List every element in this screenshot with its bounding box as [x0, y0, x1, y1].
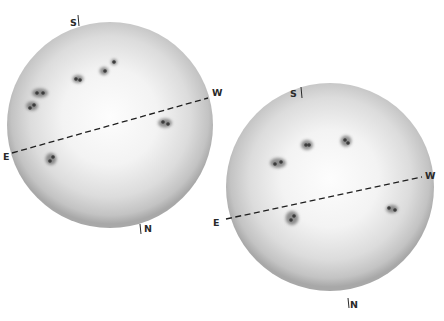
south-label: S — [70, 17, 77, 28]
sunspot-umbra — [307, 143, 311, 147]
sunspot-umbra — [161, 120, 165, 124]
sunspot-umbra — [346, 141, 350, 145]
sunspot-diagram: S N E W S N E W — [0, 0, 444, 321]
west-label: W — [425, 170, 436, 181]
sunspot-group — [100, 67, 109, 75]
sunspot-penumbra — [158, 119, 172, 128]
sunspot-group — [341, 136, 352, 147]
north-label: N — [350, 299, 358, 310]
sunspot-group — [26, 102, 38, 111]
sunspot-group — [286, 211, 299, 225]
sunspot-umbra — [292, 214, 296, 218]
solar-disk-2: S N E W — [213, 83, 436, 310]
solar-disk-1: S N E W — [3, 15, 223, 234]
sunspot-umbra — [279, 160, 283, 164]
sunspot-umbra — [103, 69, 107, 73]
sunspot-umbra — [41, 91, 45, 95]
sun-disk — [7, 22, 213, 228]
sunspot-group — [386, 205, 398, 213]
east-label: E — [3, 151, 10, 162]
sunspot-penumbra — [73, 75, 84, 83]
sunspot-umbra — [78, 78, 82, 82]
sunspot-umbra — [273, 162, 277, 166]
sunspot-umbra — [112, 60, 116, 64]
sunspot-umbra — [28, 106, 32, 110]
sunspot-umbra — [343, 138, 347, 142]
sunspot-group — [111, 59, 117, 65]
south-pole-tick — [78, 15, 79, 26]
sunspot-umbra — [51, 155, 55, 159]
sunspot-group — [32, 89, 48, 98]
sunspot-penumbra — [46, 153, 57, 165]
sunspot-group — [301, 140, 313, 150]
east-label: E — [213, 217, 220, 228]
sunspot-umbra — [35, 91, 39, 95]
sunspot-umbra — [166, 122, 170, 126]
west-label: W — [212, 87, 223, 98]
sunspot-group — [73, 75, 84, 83]
sunspot-group — [46, 153, 57, 165]
south-label: S — [290, 88, 297, 99]
sunspot-penumbra — [286, 211, 299, 225]
sunspot-penumbra — [26, 102, 38, 111]
sunspot-group — [158, 119, 172, 128]
north-label: N — [144, 223, 152, 234]
sun-disk — [226, 83, 434, 291]
north-pole-tick — [348, 298, 349, 308]
north-pole-tick — [140, 224, 141, 234]
sunspot-umbra — [74, 77, 78, 81]
sunspot-group — [270, 158, 286, 168]
sunspot-penumbra — [32, 89, 48, 98]
sunspot-penumbra — [270, 158, 286, 168]
sunspot-umbra — [393, 208, 397, 212]
sunspot-umbra — [387, 206, 391, 210]
sunspot-umbra — [289, 218, 293, 222]
sunspot-umbra — [48, 159, 52, 163]
sunspot-umbra — [32, 103, 36, 107]
